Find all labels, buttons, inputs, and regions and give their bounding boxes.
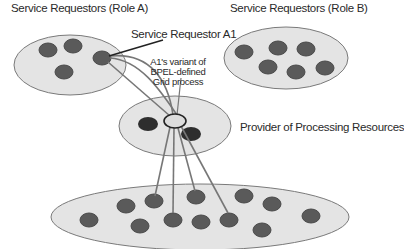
resource-node	[253, 223, 271, 237]
resources-group	[51, 184, 349, 249]
role-a-node	[64, 39, 82, 53]
role-a-node	[55, 65, 73, 79]
role-b-node	[287, 65, 305, 79]
variant-note-line3: Grid process	[143, 77, 213, 87]
variant-note: A1's variant of BPEL-defined Grid proces…	[143, 57, 213, 87]
resource-node	[263, 197, 281, 211]
resource-node	[145, 194, 163, 208]
provider-node	[138, 117, 158, 131]
resource-node	[164, 213, 182, 227]
role-b-node	[259, 60, 277, 74]
hub-circle	[164, 114, 186, 128]
role-a-group	[14, 35, 126, 95]
role-a-node	[39, 43, 57, 57]
a1-pointer-line	[109, 40, 163, 56]
role-b-node	[297, 42, 315, 56]
provider-node	[181, 127, 201, 141]
role-b-node	[269, 41, 287, 55]
role-b-group	[224, 27, 348, 89]
role-a-label: Service Requestors (Role A)	[11, 2, 148, 14]
resource-node	[192, 215, 210, 229]
resource-node	[220, 213, 238, 227]
resource-node	[235, 189, 253, 203]
resource-node	[302, 209, 320, 223]
role-b-node	[235, 45, 253, 59]
role-b-node	[316, 61, 334, 75]
resource-node	[187, 190, 205, 204]
resource-node	[117, 199, 135, 213]
requestor-a1-label: Service Requestor A1	[131, 28, 236, 40]
role-b-label: Service Requestors (Role B)	[230, 2, 368, 14]
resource-node	[131, 219, 149, 233]
resource-node	[80, 213, 98, 227]
provider-label: Provider of Processing Resources	[240, 121, 404, 133]
link-hub-to-resource	[173, 128, 174, 213]
